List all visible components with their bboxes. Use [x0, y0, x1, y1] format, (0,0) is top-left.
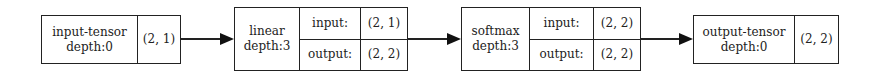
- output-shape: (2, 2): [361, 39, 407, 71]
- node-name: linear: [244, 24, 291, 39]
- io-labels: input: output:: [299, 8, 360, 70]
- node-depth: depth:3: [472, 39, 520, 54]
- node-name: output-tensor: [703, 25, 786, 40]
- node-shape: (2, 1): [137, 16, 180, 63]
- edge-input-to-linear: [181, 38, 223, 40]
- output-label: output:: [530, 39, 593, 71]
- io-labels: input: output:: [529, 8, 593, 70]
- edge-linear-to-softmax: [408, 38, 450, 40]
- node-softmax: softmax depth:3 input: output: (2, 2) (2…: [461, 7, 641, 71]
- input-shape: (2, 2): [594, 8, 640, 39]
- edge-softmax-to-output: [641, 38, 681, 40]
- io-shapes: (2, 1) (2, 2): [360, 8, 407, 70]
- arrowhead-icon: [447, 33, 461, 45]
- node-name: softmax: [472, 24, 520, 39]
- node-depth: depth:3: [244, 39, 291, 54]
- node-label: input-tensor depth:0: [42, 16, 137, 63]
- input-label: input:: [300, 8, 360, 39]
- node-name: input-tensor: [52, 25, 127, 40]
- node-linear: linear depth:3 input: output: (2, 1) (2,…: [234, 7, 408, 71]
- input-shape: (2, 1): [361, 8, 407, 39]
- arrowhead-icon: [679, 33, 693, 45]
- node-label: linear depth:3: [235, 8, 299, 70]
- node-depth: depth:0: [52, 40, 127, 55]
- node-shape: (2, 2): [794, 16, 838, 63]
- node-label: softmax depth:3: [462, 8, 529, 70]
- output-shape: (2, 2): [594, 39, 640, 71]
- arrowhead-icon: [220, 33, 234, 45]
- node-label: output-tensor depth:0: [694, 16, 794, 63]
- node-input-tensor: input-tensor depth:0 (2, 1): [41, 15, 181, 64]
- node-depth: depth:0: [703, 40, 786, 55]
- io-shapes: (2, 2) (2, 2): [593, 8, 640, 70]
- node-output-tensor: output-tensor depth:0 (2, 2): [693, 15, 839, 64]
- output-label: output:: [300, 39, 360, 71]
- input-label: input:: [530, 8, 593, 39]
